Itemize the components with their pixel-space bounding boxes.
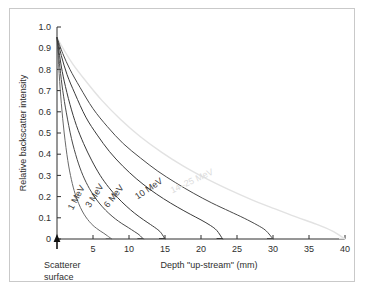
y-tick-label: 1.0 [38,22,51,32]
curves-layer [57,38,345,239]
x-tick-label: 25 [232,244,242,254]
chart-canvas: 1 MeV3 MeV6 MeV10 MeV14–25 MeV 00.10.20.… [0,0,365,299]
y-tick-label: 0.4 [38,149,51,159]
origin-arrow-marker [54,234,61,242]
x-tick-label: 20 [196,244,206,254]
y-tick-label: 0.5 [38,128,51,138]
x-tick-label: 40 [340,244,350,254]
curve-labels-layer: 1 MeV3 MeV6 MeV10 MeV14–25 MeV [66,167,215,212]
y-tick-label: 0.3 [38,171,51,181]
curve-14-25-mev [57,38,345,239]
y-tick-label: 0.1 [38,213,51,223]
x-tick-label: 35 [304,244,314,254]
y-tick-label: 0.7 [38,86,51,96]
axes-layer [54,27,345,249]
backscatter-chart-svg: 1 MeV3 MeV6 MeV10 MeV14–25 MeV 00.10.20.… [0,0,365,299]
x-axis-title: Depth "up-stream" (mm) [161,260,258,270]
curve-label-6-mev: 6 MeV [102,183,126,210]
curve-label-3-mev: 3 MeV [83,182,105,209]
curve-label-1-mev: 1 MeV [66,184,87,212]
y-tick-label: 0.8 [38,65,51,75]
y-tick-label: 0 [46,234,51,244]
scatterer-annotation-line1: Scatterer [44,260,81,270]
y-tick-label: 0.9 [38,43,51,53]
y-tick-label: 0.6 [38,107,51,117]
x-tick-label: 15 [160,244,170,254]
axis-text-layer: 00.10.20.30.40.50.60.70.80.91.0510152025… [18,22,350,282]
x-tick-label: 5 [90,244,95,254]
y-tick-label: 0.2 [38,192,51,202]
x-tick-label: 30 [268,244,278,254]
scatterer-annotation-line2: surface [44,272,74,282]
y-axis-title: Relative backscatter intensity [18,74,28,191]
x-tick-label: 10 [124,244,134,254]
